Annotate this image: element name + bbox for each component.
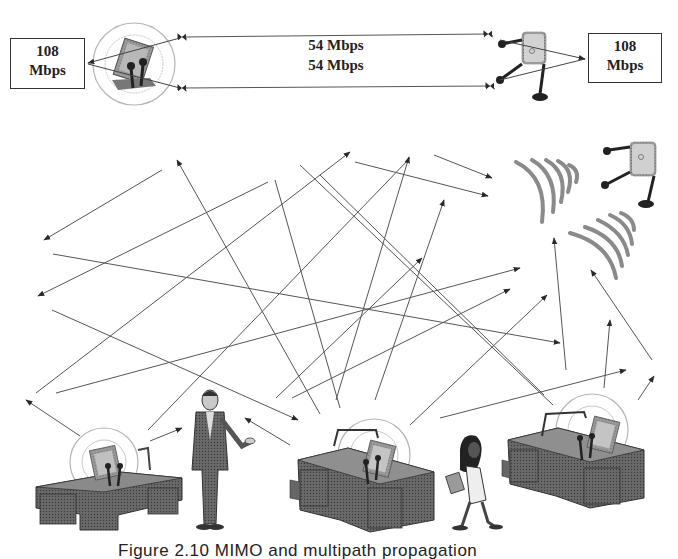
stream-1-rate-label: 54 Mbps bbox=[276, 35, 396, 55]
figure-caption: Figure 2.10 MIMO and multipath propagati… bbox=[118, 541, 477, 559]
left-throughput-box: 108 Mbps bbox=[10, 38, 85, 89]
right-throughput-value: 108 bbox=[589, 37, 661, 56]
laptop-radio-icon bbox=[93, 23, 175, 105]
woman-walking-icon bbox=[446, 435, 503, 530]
left-throughput-value: 108 bbox=[11, 42, 84, 61]
stream-2-rate-label: 54 Mbps bbox=[276, 55, 396, 75]
desk-right-icon bbox=[502, 394, 644, 508]
mimo-diagram bbox=[0, 0, 678, 559]
man-in-suit-icon bbox=[192, 390, 255, 530]
right-throughput-unit: Mbps bbox=[589, 56, 661, 75]
access-point-icon-right bbox=[601, 142, 656, 208]
desk-left-icon bbox=[36, 428, 182, 530]
access-point-icon-top bbox=[496, 32, 548, 101]
left-throughput-unit: Mbps bbox=[11, 61, 84, 80]
desk-center-icon bbox=[290, 419, 434, 532]
propagation-arrows bbox=[26, 152, 654, 445]
right-throughput-box: 108 Mbps bbox=[588, 33, 662, 83]
